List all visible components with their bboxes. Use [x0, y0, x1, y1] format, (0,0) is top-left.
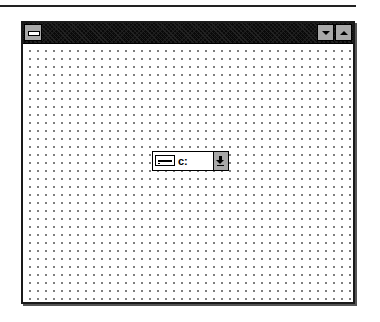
minimize-button[interactable]	[317, 24, 334, 41]
form-design-grid[interactable]: c:	[23, 44, 353, 302]
top-divider-line	[0, 5, 356, 7]
drive-selected-value: c:	[178, 155, 188, 167]
system-menu-icon	[28, 31, 40, 36]
up-triangle-icon	[340, 31, 348, 35]
drive-led	[158, 163, 160, 164]
system-menu-button[interactable]	[24, 24, 42, 41]
down-triangle-icon	[322, 31, 330, 35]
maximize-button[interactable]	[335, 24, 352, 41]
drive-list-box[interactable]: c:	[152, 151, 229, 171]
title-bar[interactable]	[23, 23, 353, 44]
drive-slot	[158, 160, 172, 162]
down-arrow-base	[217, 165, 224, 166]
hard-drive-icon	[155, 155, 175, 166]
form-window[interactable]: c:	[21, 21, 355, 304]
drive-dropdown-button[interactable]	[213, 152, 228, 170]
down-arrow-head	[216, 160, 224, 164]
